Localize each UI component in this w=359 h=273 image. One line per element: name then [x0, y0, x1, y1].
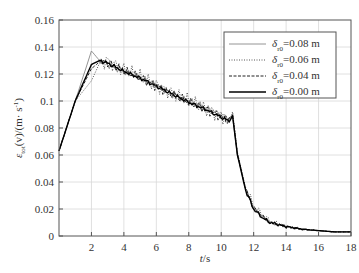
y-tick-label: 0.08 [35, 122, 55, 134]
legend: δr0=0.08 mδr0=0.06 mδr0=0.04 mδr0=0.00 m [224, 32, 336, 101]
y-tick-label: 0.06 [35, 149, 55, 161]
x-tick-label: 2 [89, 241, 95, 253]
y-tick-label: 0.1 [40, 95, 54, 107]
x-tick-label: 6 [154, 241, 160, 253]
svg-text:εtot(v)/(m· s-1): εtot(v)/(m· s-1) [12, 98, 27, 158]
x-tick-label: 16 [313, 241, 325, 253]
x-axis-label: t/s [200, 252, 210, 264]
x-tick-label: 10 [216, 241, 228, 253]
x-axis-ticks: 24681012141618 [89, 232, 357, 253]
y-axis-label: εtot(v)/(m· s-1) [12, 98, 27, 158]
x-tick-label: 8 [186, 241, 192, 253]
y-tick-label: 0.12 [35, 68, 54, 80]
line-chart: 00.020.040.060.080.10.120.140.16 2468101… [0, 0, 359, 273]
x-tick-label: 4 [121, 241, 127, 253]
y-tick-label: 0.16 [35, 14, 55, 26]
y-tick-label: 0.04 [35, 176, 55, 188]
y-tick-label: 0 [49, 230, 55, 242]
x-tick-label: 12 [248, 241, 259, 253]
y-tick-label: 0.02 [35, 203, 54, 215]
x-tick-label: 18 [346, 241, 358, 253]
y-tick-label: 0.14 [35, 41, 55, 53]
x-tick-label: 14 [281, 241, 293, 253]
